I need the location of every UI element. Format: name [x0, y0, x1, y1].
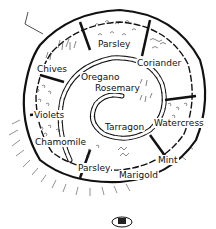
label-watercress: Watercress [153, 118, 205, 128]
label-violets: Violets [33, 110, 65, 120]
label-oregano: Oregano [80, 72, 121, 82]
label-chamomile: Chamomile [34, 137, 87, 147]
label-tarragon: Tarragon [104, 122, 145, 132]
label-parsley-top: Parsley [97, 39, 131, 49]
label-rosemary: Rosemary [94, 83, 141, 93]
label-marigold: Marigold [118, 170, 159, 180]
label-coriander: Coriander [136, 58, 182, 68]
sprout-illustration [112, 217, 132, 227]
label-parsley-bottom: Parsley [77, 163, 111, 173]
marker-stick [25, 12, 43, 34]
label-mint: Mint [157, 155, 179, 165]
label-chives: Chives [36, 64, 68, 74]
